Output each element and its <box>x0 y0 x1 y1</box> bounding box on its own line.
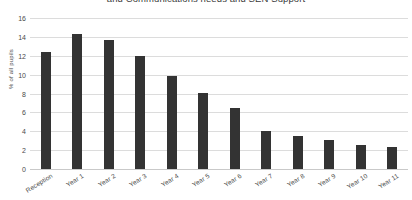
bar <box>135 56 145 169</box>
x-tick-label: Year 3 <box>128 172 148 188</box>
x-tick-label: Year 4 <box>160 172 180 188</box>
bar <box>293 136 303 169</box>
bars-group <box>30 18 408 169</box>
bar <box>261 131 271 169</box>
y-tick-label: 8 <box>22 90 26 97</box>
x-tick-label: Year 5 <box>191 172 211 188</box>
bar <box>72 34 82 169</box>
bar <box>198 93 208 169</box>
bar-chart: and Communications needs and SEN Support… <box>0 0 412 200</box>
bar <box>167 76 177 169</box>
y-tick-label: 10 <box>18 71 26 78</box>
x-tick-label: Reception <box>24 172 53 194</box>
x-axis-labels: ReceptionYear 1Year 2Year 3Year 4Year 5Y… <box>30 170 408 200</box>
y-axis-title: % of all pupils <box>8 34 14 104</box>
bar <box>324 140 334 169</box>
bar <box>356 145 366 169</box>
x-tick-label: Year 6 <box>223 172 243 188</box>
y-tick-label: 12 <box>18 52 26 59</box>
y-tick-label: 4 <box>22 128 26 135</box>
bar <box>387 147 397 169</box>
y-tick-label: 6 <box>22 109 26 116</box>
y-tick-label: 2 <box>22 147 26 154</box>
bar <box>104 40 114 169</box>
x-tick-label: Year 9 <box>317 172 337 188</box>
x-tick-label: Year 1 <box>65 172 85 188</box>
plot-area: 1614121086420 <box>30 18 408 169</box>
bar <box>230 108 240 169</box>
y-tick-label: 0 <box>22 166 26 173</box>
bar <box>41 52 51 169</box>
x-tick-label: Year 8 <box>286 172 306 188</box>
x-tick-label: Year 11 <box>377 172 400 190</box>
x-tick-label: Year 7 <box>254 172 274 188</box>
x-tick-label: Year 10 <box>345 172 368 190</box>
y-tick-label: 14 <box>18 33 26 40</box>
x-tick-label: Year 2 <box>97 172 117 188</box>
y-tick-label: 16 <box>18 15 26 22</box>
chart-title: and Communications needs and SEN Support <box>0 0 412 4</box>
